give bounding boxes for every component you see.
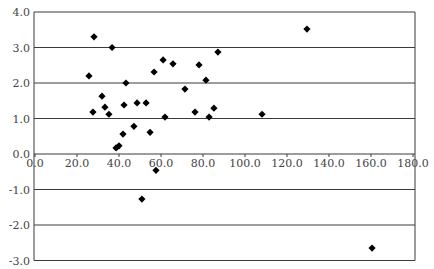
x-tick-label: 20.0 (65, 157, 90, 170)
x-tick-label: 60.0 (149, 157, 174, 170)
y-tick-label: 2.0 (13, 77, 31, 90)
data-point-diamond (205, 113, 212, 120)
data-point-diamond (195, 61, 202, 68)
data-point-diamond (161, 113, 168, 120)
x-tick-label: 40.0 (107, 157, 132, 170)
data-point-diamond (122, 79, 129, 86)
data-points (85, 25, 375, 251)
y-tick-label: 3.0 (13, 42, 31, 55)
data-point-diamond (105, 111, 112, 118)
scatter-chart: 4.03.02.01.00.0-1.0-2.0-3.0 0.020.040.06… (0, 0, 434, 269)
data-point-diamond (98, 93, 105, 100)
x-tick-label: 80.0 (191, 157, 216, 170)
data-point-diamond (130, 123, 137, 130)
data-point-diamond (133, 99, 140, 106)
data-point-diamond (108, 44, 115, 51)
data-point-diamond (169, 60, 176, 67)
data-point-diamond (160, 56, 167, 63)
x-axis-labels: 0.020.040.060.080.0100.0120.0140.0160.01… (26, 157, 429, 170)
x-tick-label: 140.0 (313, 157, 345, 170)
gridlines (34, 12, 415, 261)
data-point-diamond (101, 104, 108, 111)
data-point-diamond (142, 99, 149, 106)
data-point-diamond (146, 129, 153, 136)
data-point-diamond (150, 68, 157, 75)
x-tick-label: 100.0 (229, 157, 261, 170)
y-tick-label: 4.0 (13, 6, 31, 19)
data-point-diamond (214, 49, 221, 56)
x-tick-label: 120.0 (271, 157, 303, 170)
y-tick-label: -3.0 (9, 255, 30, 268)
y-tick-label: 1.0 (13, 113, 31, 126)
data-point-diamond (210, 105, 217, 112)
data-point-diamond (89, 109, 96, 116)
y-tick-label: -2.0 (9, 219, 30, 232)
data-point-diamond (138, 195, 145, 202)
data-point-diamond (191, 109, 198, 116)
y-tick-label: -1.0 (9, 184, 30, 197)
x-tick-label: 160.0 (355, 157, 387, 170)
x-tick-label: 180.0 (397, 157, 429, 170)
data-point-diamond (258, 111, 265, 118)
axes (34, 12, 415, 261)
data-point-diamond (303, 25, 310, 32)
data-point-diamond (181, 85, 188, 92)
data-point-diamond (368, 244, 375, 251)
x-tick-label: 0.0 (26, 157, 44, 170)
data-point-diamond (119, 131, 126, 138)
y-axis-labels: 4.03.02.01.00.0-1.0-2.0-3.0 (9, 6, 30, 268)
data-point-diamond (85, 72, 92, 79)
data-point-diamond (120, 101, 127, 108)
data-point-diamond (90, 33, 97, 40)
